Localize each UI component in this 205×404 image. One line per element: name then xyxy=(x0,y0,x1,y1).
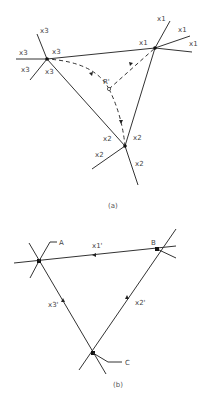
figure-b: A B C x1' x2' x3' (b) xyxy=(14,229,176,389)
diagram-canvas: R' x3 x3 x3 x3 x3 x1 x1 x1 x1 x2 x2 x2 x… xyxy=(0,0,205,404)
label-x1-left: x1 xyxy=(139,39,148,47)
edge-x3-x2 xyxy=(47,59,125,146)
node-b xyxy=(155,247,159,251)
node-x2 xyxy=(123,144,127,148)
label-x3-top: x3 xyxy=(40,27,49,35)
arrow-icon xyxy=(129,62,133,66)
label-x1-right: x1 xyxy=(189,40,198,48)
label-x3-prime: x3' xyxy=(48,301,59,309)
label-x1-prime: x1' xyxy=(92,242,103,250)
edge-x3-x1 xyxy=(47,48,155,59)
caption-b: (b) xyxy=(113,381,123,389)
label-x3-lower: x3 xyxy=(45,68,54,76)
arrow-icon xyxy=(119,120,123,124)
label-x2-lower: x2 xyxy=(135,160,144,168)
edge-b-c xyxy=(79,229,176,370)
b-stub-lower-right xyxy=(157,249,176,258)
r-prime-point xyxy=(107,87,110,90)
x3-stub-top xyxy=(37,34,47,59)
label-b: B xyxy=(151,239,156,247)
label-x1-right-upper: x1 xyxy=(178,26,187,34)
arrow-icon xyxy=(125,295,129,299)
figure-a: R' x3 x3 x3 x3 x3 x1 x1 x1 x1 x2 x2 x2 x… xyxy=(16,15,198,210)
label-x2-right: x2 xyxy=(133,134,142,142)
caption-a: (a) xyxy=(108,202,118,210)
label-a: A xyxy=(59,239,64,247)
node-x3 xyxy=(45,57,49,61)
label-c: C xyxy=(125,359,130,367)
x1-stub-right xyxy=(155,48,192,52)
r-prime-label: R' xyxy=(103,78,110,86)
dashed-path-r-x1 xyxy=(109,48,155,89)
label-x2-left: x2 xyxy=(95,151,104,159)
label-x3-lower-left: x3 xyxy=(21,66,30,74)
leader-c xyxy=(93,353,122,362)
arrow-icon xyxy=(89,72,93,76)
node-x1 xyxy=(153,46,157,50)
label-x2-prime: x2' xyxy=(135,299,146,307)
a-stub-lower xyxy=(30,261,39,278)
label-x3-left: x3 xyxy=(19,49,28,57)
leader-a xyxy=(39,242,57,261)
label-x3-right: x3 xyxy=(52,48,61,56)
label-x2-left-upper: x2 xyxy=(103,135,112,143)
label-x1-top: x1 xyxy=(157,15,166,23)
arrow-icon xyxy=(92,253,96,257)
dashed-path-r-x3 xyxy=(47,59,109,89)
